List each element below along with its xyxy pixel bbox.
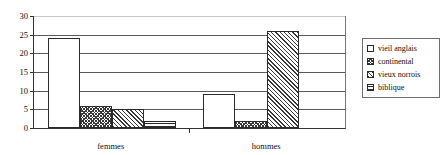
- bar: [203, 94, 235, 128]
- plot-area: 051015202530: [33, 16, 346, 129]
- legend-item: continental: [367, 55, 436, 68]
- y-axis-tick: [30, 16, 34, 17]
- gridline: [34, 16, 345, 17]
- legend-swatch-icon: [367, 45, 374, 52]
- y-axis-tick-label: 25: [20, 30, 29, 39]
- legend-item-label: biblique: [378, 84, 404, 92]
- y-axis-tick: [30, 109, 34, 110]
- y-axis-tick: [30, 72, 34, 73]
- y-axis-tick-label: 10: [20, 86, 29, 95]
- bar-chart: 051015202530 femmeshommes vieil anglaisc…: [0, 0, 447, 155]
- y-axis-tick-label: 15: [20, 68, 29, 77]
- y-axis-tick-label: 0: [24, 124, 28, 133]
- legend-swatch-icon: [367, 71, 374, 78]
- bar: [80, 106, 112, 128]
- y-axis-tick-label: 20: [20, 49, 29, 58]
- x-axis-category-label: femmes: [97, 141, 124, 151]
- legend-item-label: continental: [378, 58, 414, 66]
- legend-item: vieil anglais: [367, 42, 436, 55]
- legend-item: biblique: [367, 81, 436, 94]
- y-axis-tick: [30, 35, 34, 36]
- bar: [267, 31, 299, 128]
- y-axis-tick-label: 5: [24, 105, 28, 114]
- legend-item-label: vieil anglais: [378, 45, 417, 53]
- bar: [48, 38, 80, 128]
- legend-swatch-icon: [367, 84, 374, 91]
- legend-swatch-icon: [367, 58, 374, 65]
- bar: [112, 109, 144, 128]
- x-axis: femmeshommes: [33, 129, 346, 155]
- legend-item: vieux norrois: [367, 68, 436, 81]
- bar: [235, 121, 267, 128]
- y-axis-tick-label: 30: [20, 12, 29, 21]
- x-axis-tick: [189, 129, 190, 133]
- y-axis-tick: [30, 91, 34, 92]
- x-axis-category-label: hommes: [252, 141, 281, 151]
- bar: [144, 121, 176, 128]
- legend-item-label: vieux norrois: [378, 71, 420, 79]
- chart-legend: vieil anglaiscontinentalvieux norroisbib…: [362, 38, 440, 98]
- y-axis-tick: [30, 53, 34, 54]
